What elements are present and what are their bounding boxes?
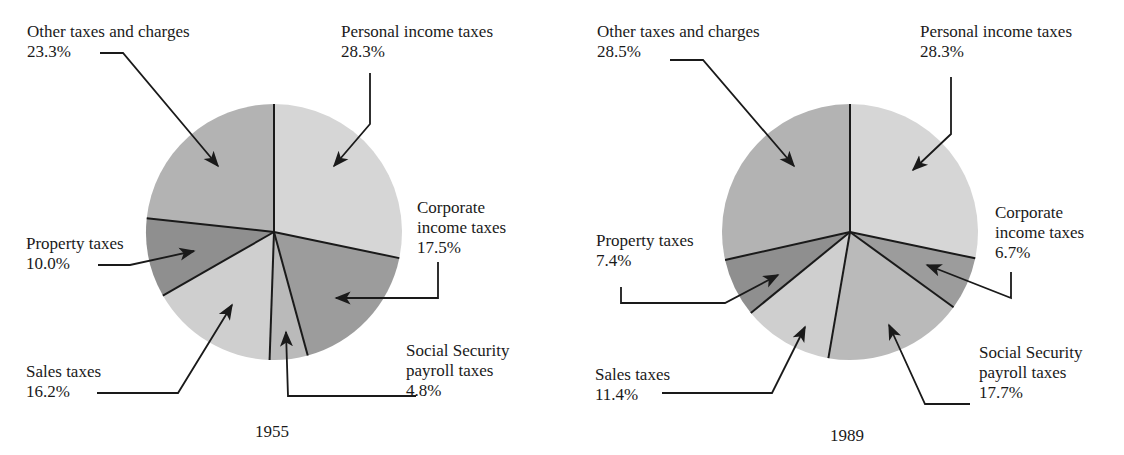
label-name: payroll taxes — [406, 361, 509, 381]
label-name: Other taxes and charges — [27, 22, 190, 42]
pie-1955 — [146, 104, 402, 360]
label-name: income taxes — [417, 218, 506, 238]
pie-charts-svg — [0, 0, 1124, 455]
label-1955-social-security: Social Security payroll taxes 4.8% — [406, 341, 509, 401]
label-name: Social Security — [979, 343, 1082, 363]
label-1989-property: Property taxes 7.4% — [596, 231, 694, 271]
label-1955-personal: Personal income taxes 28.3% — [341, 22, 493, 62]
label-value: 23.3% — [27, 42, 190, 62]
label-name: Sales taxes — [595, 365, 670, 385]
label-value: 28.3% — [920, 42, 1072, 62]
label-value: 4.8% — [406, 381, 509, 401]
label-value: 7.4% — [596, 251, 694, 271]
label-1955-other: Other taxes and charges 23.3% — [27, 22, 190, 62]
label-value: 17.5% — [417, 238, 506, 258]
label-1989-corporate: Corporate income taxes 6.7% — [995, 203, 1084, 263]
chart-canvas: Other taxes and charges 23.3% Personal i… — [0, 0, 1124, 455]
label-value: 17.7% — [979, 383, 1082, 403]
label-name: Personal income taxes — [920, 22, 1072, 42]
label-value: 10.0% — [26, 254, 124, 274]
pie-1989 — [722, 104, 978, 360]
label-name: Corporate — [995, 203, 1084, 223]
label-name: payroll taxes — [979, 363, 1082, 383]
label-name: Social Security — [406, 341, 509, 361]
label-1955-property: Property taxes 10.0% — [26, 234, 124, 274]
label-name: Corporate — [417, 198, 506, 218]
label-value: 28.3% — [341, 42, 493, 62]
label-name: Property taxes — [596, 231, 694, 251]
label-1989-other: Other taxes and charges 28.5% — [597, 22, 760, 62]
label-1989-social-security: Social Security payroll taxes 17.7% — [979, 343, 1082, 403]
label-name: Property taxes — [26, 234, 124, 254]
label-value: 16.2% — [26, 382, 101, 402]
year-label-1955: 1955 — [255, 422, 289, 442]
label-value: 28.5% — [597, 42, 760, 62]
pie-slice-other — [147, 104, 274, 232]
year-label-1989: 1989 — [830, 426, 864, 446]
label-value: 6.7% — [995, 243, 1084, 263]
label-1989-personal: Personal income taxes 28.3% — [920, 22, 1072, 62]
label-1989-sales: Sales taxes 11.4% — [595, 365, 670, 405]
label-name: Other taxes and charges — [597, 22, 760, 42]
label-value: 11.4% — [595, 385, 670, 405]
label-name: Sales taxes — [26, 362, 101, 382]
label-name: Personal income taxes — [341, 22, 493, 42]
label-name: income taxes — [995, 223, 1084, 243]
label-1955-corporate: Corporate income taxes 17.5% — [417, 198, 506, 258]
label-1955-sales: Sales taxes 16.2% — [26, 362, 101, 402]
